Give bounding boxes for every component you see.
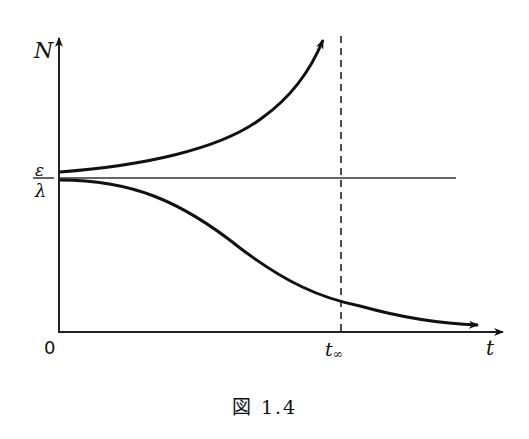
y-axis-label: N [34,38,53,63]
asymptote-label: t∞ [325,338,343,361]
upper-curve [60,40,323,172]
figure-caption: 図 1.4 [0,392,529,419]
asymptote-label-subscript: ∞ [333,347,343,361]
lower-curve [60,180,478,325]
figure: N ε λ 0 t∞ t 図 1.4 [0,0,529,439]
origin-label: 0 [44,337,55,358]
plot-canvas [0,0,529,439]
equilibrium-label-denominator: λ [35,180,46,201]
x-axis-label: t [486,336,494,360]
equilibrium-label-numerator: ε [35,160,44,180]
asymptote-label-base: t [325,338,333,360]
